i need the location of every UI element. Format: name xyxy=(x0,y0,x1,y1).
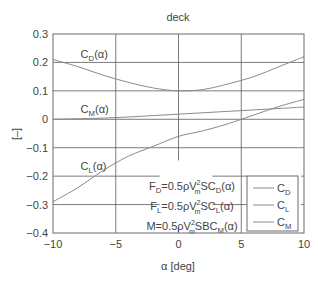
formula-1: FD=0.5ρV2mSCD(α) xyxy=(149,179,235,196)
y-tick-label: 0.2 xyxy=(33,56,48,68)
formula-2: FL=0.5ρV2mSCL(α) xyxy=(150,199,234,216)
y-tick-label: −0.3 xyxy=(26,199,48,211)
cm-label: CM(α) xyxy=(81,103,109,118)
cl-label: CL(α) xyxy=(81,160,107,175)
curve-labels: CD(α)CM(α)CL(α) xyxy=(81,48,109,175)
cd-label: CD(α) xyxy=(81,48,108,63)
y-tick-label: 0.3 xyxy=(33,28,48,40)
x-tick-label: 5 xyxy=(238,238,244,250)
x-axis-label: α [deg] xyxy=(161,260,195,272)
force-formulas: FD=0.5ρV2mSCD(α)FL=0.5ρV2mSCL(α)M=0.5ρV2… xyxy=(146,179,237,236)
x-tick-label: −5 xyxy=(109,238,122,250)
y-tick-label: 0.1 xyxy=(33,85,48,97)
y-tick-label: −0.2 xyxy=(26,170,48,182)
legend: CDCLCM xyxy=(247,176,298,231)
aero-coefficients-chart: deck −0.4−0.3−0.2−0.100.10.20.3−10−50510… xyxy=(0,0,318,285)
x-tick-label: −10 xyxy=(44,238,63,250)
y-tick-label: 0 xyxy=(42,113,48,125)
x-tick-label: 10 xyxy=(298,238,310,250)
y-tick-label: −0.1 xyxy=(26,142,48,154)
x-tick-label: 0 xyxy=(175,238,181,250)
chart-title: deck xyxy=(166,11,190,23)
y-axis-label: [–] xyxy=(10,128,22,140)
